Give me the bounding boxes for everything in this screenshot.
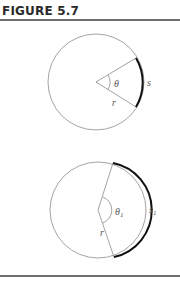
circle-diagram-top: θ s r xyxy=(48,34,151,130)
figure-diagrams: θ s r θ1 s1 r xyxy=(0,0,180,285)
circle-diagram-bottom: θ1 s1 r xyxy=(50,162,156,258)
arc-s-label: s xyxy=(147,77,151,88)
theta1-label: θ1 xyxy=(115,206,123,219)
theta-label: θ xyxy=(114,78,119,89)
arc-s-highlight xyxy=(136,58,143,107)
footer-rule xyxy=(0,275,180,277)
arc-s1-label: s1 xyxy=(149,204,156,217)
angle-marker-theta1 xyxy=(103,197,112,223)
radius-r-label: r xyxy=(112,97,116,108)
angle-marker-theta xyxy=(108,75,110,90)
radius-line-upper xyxy=(98,163,113,210)
radius-r-label: r xyxy=(100,227,104,238)
